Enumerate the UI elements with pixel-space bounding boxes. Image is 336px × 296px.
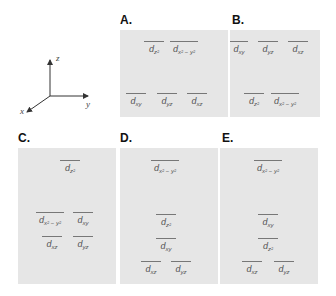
orbital-dxy: dxy: [73, 212, 93, 226]
coordinate-axes: z y x: [18, 50, 98, 120]
orbital-dz2: dz²: [244, 93, 264, 107]
panel-a: dz² dx² − y² dxy dyz dxz: [120, 30, 228, 117]
orbital-dxy: dxy: [258, 214, 278, 228]
orbital-dyz: dyz: [274, 261, 294, 275]
orbital-dz2: dz²: [156, 214, 176, 228]
panel-d-label: D.: [120, 131, 132, 145]
orbital-dx2-y2: dx² − y²: [151, 160, 179, 174]
orbital-dz2: dz²: [258, 238, 278, 252]
orbital-dx2-y2: dx² − y²: [170, 41, 198, 55]
panel-c-label: C.: [18, 131, 30, 145]
orbital-dxy: dxy: [230, 41, 248, 55]
orbital-dz2: dz²: [60, 160, 80, 174]
panel-b: dxy dyz dxz dz² dx² − y²: [230, 30, 320, 117]
panel-e-label: E.: [222, 131, 233, 145]
orbital-dx2-y2: dx² − y²: [271, 93, 299, 107]
x-axis-label: x: [20, 106, 24, 116]
orbital-dxy: dxy: [156, 238, 176, 252]
orbital-dyz: dyz: [157, 93, 177, 107]
orbital-dyz: dyz: [258, 41, 278, 55]
orbital-dx2-y2: dx² − y²: [36, 212, 64, 226]
panel-b-label: B.: [232, 13, 244, 27]
z-axis-label: z: [56, 53, 60, 63]
orbital-dyz: dyz: [73, 236, 93, 250]
orbital-dxz: dxz: [187, 93, 207, 107]
panel-e: dx² − y² dxy dz² dxz dyz: [220, 148, 318, 284]
orbital-dxz: dxz: [42, 236, 62, 250]
y-axis-label: y: [86, 99, 90, 109]
orbital-dxz: dxz: [242, 261, 262, 275]
orbital-dyz: dyz: [171, 261, 191, 275]
panel-d: dx² − y² dz² dxy dxz dyz: [120, 148, 218, 284]
panel-a-label: A.: [120, 13, 132, 27]
orbital-dxy: dxy: [126, 93, 146, 107]
orbital-dz2: dz²: [144, 41, 164, 55]
orbital-dxz: dxz: [141, 261, 161, 275]
orbital-dxz: dxz: [288, 41, 308, 55]
orbital-dx2-y2: dx² − y²: [254, 160, 282, 174]
panel-c: dz² dx² − y² dxy dxz dyz: [18, 148, 116, 284]
